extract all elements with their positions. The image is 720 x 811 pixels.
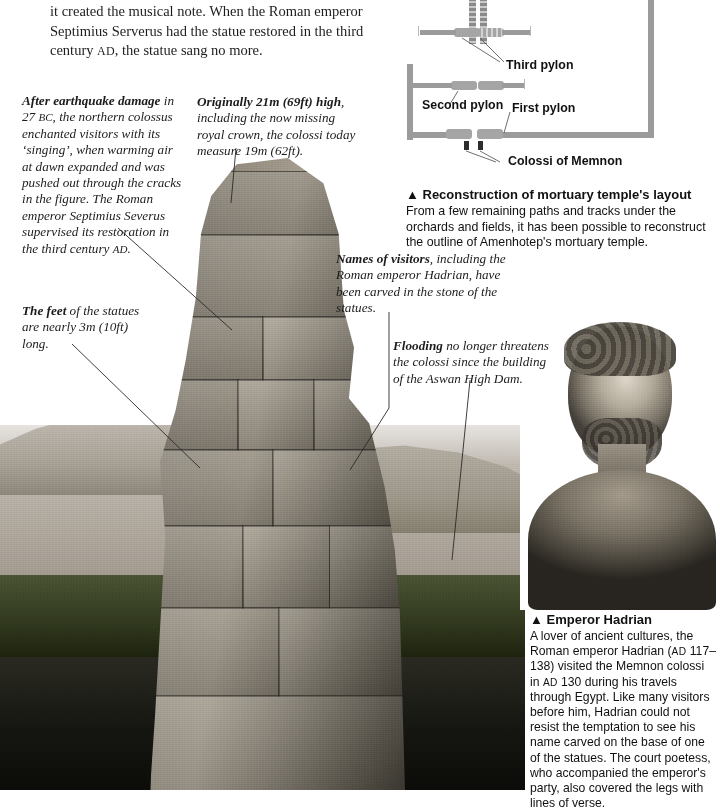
body-line-1: it created the musical note. When the Ro…: [50, 2, 395, 22]
caption-temple-layout-marker-icon: ▲: [406, 187, 419, 202]
caption-temple-layout-title-text: Reconstruction of mortuary temple's layo…: [423, 187, 692, 202]
caption-hadrian-body-3: 130 during his travels through Egypt. Li…: [530, 675, 711, 811]
mortuary-temple-plan-diagram: pillared entrance Third pylon Second pyl…: [400, 0, 720, 172]
body-line-2: Septimius Serverus had the statue restor…: [50, 22, 395, 42]
annotation-earthquake-lead: After earthquake damage: [22, 93, 160, 108]
body-line-3-b: , the statue sang no more.: [115, 42, 263, 58]
caption-emperor-hadrian-marker-icon: ▲: [530, 612, 543, 627]
annotation-names: Names of visitors, including the Roman e…: [336, 251, 516, 317]
caption-temple-layout-body: From a few remaining paths and tracks un…: [406, 204, 711, 251]
annotation-height-lead: Originally 21m (69ft) high: [197, 94, 341, 109]
caption-emperor-hadrian: ▲ Emperor Hadrian A lover of ancient cul…: [530, 611, 716, 811]
annotation-earthquake-sc-2: AD: [113, 243, 128, 255]
caption-emperor-hadrian-body: A lover of ancient cultures, the Roman e…: [530, 629, 716, 811]
annotation-earthquake-sc-1: BC: [38, 111, 52, 123]
diagram-label-third-pylon: Third pylon: [506, 58, 573, 72]
body-line-3: century AD, the statue sang no more.: [50, 41, 395, 62]
body-line-3-smallcaps: AD: [97, 44, 115, 58]
annotation-height: Originally 21m (69ft) high, including th…: [197, 94, 361, 160]
caption-hadrian-sc-1: AD: [672, 646, 687, 657]
annotation-flooding-lead: Flooding: [393, 338, 443, 353]
body-line-3-a: century: [50, 42, 97, 58]
annotation-feet: The feet of the statues are nearly 3m (1…: [22, 303, 152, 352]
article-body-text: it created the musical note. When the Ro…: [50, 2, 395, 62]
annotation-names-lead: Names of visitors: [336, 251, 430, 266]
diagram-label-colossi-of-memnon: Colossi of Memnon: [508, 154, 622, 168]
annotation-earthquake: After earthquake damage in 27 BC, the no…: [22, 93, 184, 257]
annotation-earthquake-text-c: .: [127, 241, 130, 256]
caption-temple-layout: ▲ Reconstruction of mortuary temple's la…: [406, 186, 711, 251]
caption-emperor-hadrian-title-text: Emperor Hadrian: [547, 612, 652, 627]
caption-hadrian-sc-2: AD: [543, 677, 558, 688]
caption-temple-layout-title: ▲ Reconstruction of mortuary temple's la…: [406, 186, 711, 203]
diagram-label-second-pylon: Second pylon: [422, 98, 503, 112]
diagram-leader-lines: [400, 0, 720, 172]
annotation-flooding: Flooding no longer threatens the colossi…: [393, 338, 558, 387]
annotation-feet-lead: The feet: [22, 303, 66, 318]
caption-emperor-hadrian-title: ▲ Emperor Hadrian: [530, 611, 716, 628]
annotation-earthquake-text-b: , the northern colossus enchanted visito…: [22, 109, 181, 255]
diagram-label-first-pylon: First pylon: [512, 101, 575, 115]
caption-hadrian-body-1: A lover of ancient cultures, the Roman e…: [530, 629, 693, 658]
